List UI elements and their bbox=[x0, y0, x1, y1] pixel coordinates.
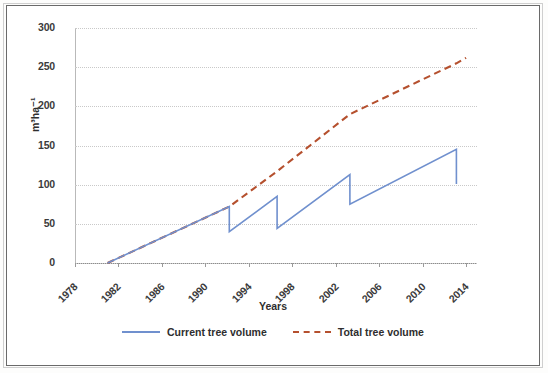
x-tick-mark bbox=[423, 263, 424, 267]
y-tick-label: 0 bbox=[15, 256, 55, 268]
legend-swatch-dashed-line-icon bbox=[293, 331, 331, 333]
y-tick-label: 250 bbox=[15, 60, 55, 72]
x-tick-mark bbox=[336, 263, 337, 267]
x-tick-mark bbox=[249, 263, 250, 267]
plot-area bbox=[75, 28, 477, 263]
legend-label-current-tree-volume: Current tree volume bbox=[167, 326, 267, 338]
x-tick-mark bbox=[466, 263, 467, 267]
x-tick-mark bbox=[379, 263, 380, 267]
x-axis-title: Years bbox=[7, 300, 539, 312]
x-tick-mark bbox=[205, 263, 206, 267]
legend-item-current-tree-volume: Current tree volume bbox=[122, 326, 267, 338]
x-tick-mark bbox=[118, 263, 119, 267]
chart-screenshot: m³ha⁻¹ 050100150200250300 19781982198619… bbox=[0, 0, 548, 373]
gridline bbox=[75, 263, 477, 264]
x-tick-mark bbox=[75, 263, 76, 267]
y-tick-label: 200 bbox=[15, 99, 55, 111]
y-tick-label: 50 bbox=[15, 217, 55, 229]
total-tree-volume-line bbox=[108, 58, 467, 263]
x-tick-mark bbox=[162, 263, 163, 267]
y-tick-label: 150 bbox=[15, 139, 55, 151]
chart-legend: Current tree volume Total tree volume bbox=[7, 326, 539, 338]
legend-item-total-tree-volume: Total tree volume bbox=[293, 326, 424, 338]
chart-frame: m³ha⁻¹ 050100150200250300 19781982198619… bbox=[6, 5, 540, 366]
series-lines bbox=[75, 28, 477, 263]
legend-swatch-solid-line-icon bbox=[122, 331, 160, 333]
y-tick-label: 100 bbox=[15, 178, 55, 190]
y-tick-label: 300 bbox=[15, 21, 55, 33]
legend-label-total-tree-volume: Total tree volume bbox=[338, 326, 424, 338]
x-tick-mark bbox=[292, 263, 293, 267]
